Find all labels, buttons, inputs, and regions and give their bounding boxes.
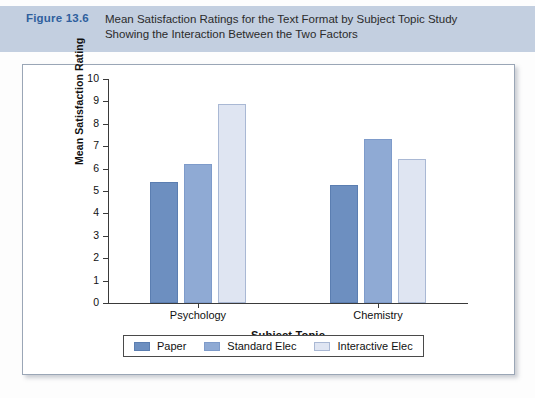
legend-item-standard-elec[interactable]: Standard Elec xyxy=(204,340,296,352)
bar-standard-elec-chemistry xyxy=(364,139,392,303)
legend-item-paper[interactable]: Paper xyxy=(134,340,186,352)
y-axis-tick-label: 9 xyxy=(93,94,99,106)
chart-legend: PaperStandard ElecInteractive Elec xyxy=(123,335,424,357)
y-axis-tick: 6 xyxy=(103,169,108,170)
bar-interactive-elec-psychology xyxy=(218,104,246,303)
legend-label: Standard Elec xyxy=(227,340,296,352)
x-axis-tick xyxy=(198,303,199,308)
y-axis-line xyxy=(108,79,109,303)
bar-paper-chemistry xyxy=(330,185,358,303)
y-axis-tick: 9 xyxy=(103,101,108,102)
x-axis-group-label: Chemistry xyxy=(318,309,438,321)
y-axis-tick: 0 xyxy=(103,303,108,304)
y-axis-tick: 4 xyxy=(103,213,108,214)
y-axis-tick: 8 xyxy=(103,124,108,125)
legend-label: Paper xyxy=(157,340,186,352)
y-axis-tick-label: 0 xyxy=(93,296,99,308)
y-axis-tick: 5 xyxy=(103,191,108,192)
plot-axes: 012345678910 PsychologyChemistry Subject… xyxy=(108,79,468,303)
x-axis-line xyxy=(108,303,468,304)
legend-swatch-icon xyxy=(204,342,220,351)
bar-standard-elec-psychology xyxy=(184,164,212,303)
bar-interactive-elec-chemistry xyxy=(398,159,426,303)
chart-panel: Mean Satisfaction Rating 012345678910 Ps… xyxy=(22,64,515,375)
y-axis-tick-label: 5 xyxy=(93,184,99,196)
bar-paper-psychology xyxy=(150,182,178,303)
y-axis-tick-label: 7 xyxy=(93,139,99,151)
y-axis-tick-label: 10 xyxy=(87,72,99,84)
y-axis-tick-label: 8 xyxy=(93,117,99,129)
y-axis-tick: 3 xyxy=(103,236,108,237)
y-axis-tick-label: 1 xyxy=(93,274,99,286)
y-axis-tick-label: 6 xyxy=(93,162,99,174)
y-axis-tick: 2 xyxy=(103,258,108,259)
x-axis-group-label: Psychology xyxy=(138,309,258,321)
plot-wrapper: Mean Satisfaction Rating 012345678910 Ps… xyxy=(23,65,514,374)
y-axis-tick: 1 xyxy=(103,281,108,282)
legend-item-interactive-elec[interactable]: Interactive Elec xyxy=(314,340,412,352)
y-axis-tick: 7 xyxy=(103,146,108,147)
caption-line-1: Mean Satisfaction Ratings for the Text F… xyxy=(105,12,457,27)
y-axis-tick: 10 xyxy=(103,79,108,80)
figure-number-label: Figure 13.6 xyxy=(26,12,89,24)
y-axis-tick-label: 4 xyxy=(93,206,99,218)
legend-swatch-icon xyxy=(314,342,330,351)
figure-caption-text: Mean Satisfaction Ratings for the Text F… xyxy=(105,12,457,42)
y-axis-tick-label: 3 xyxy=(93,229,99,241)
y-axis-title: Mean Satisfaction Rating xyxy=(73,149,85,165)
y-axis-tick-label: 2 xyxy=(93,251,99,263)
x-axis-tick xyxy=(378,303,379,308)
legend-swatch-icon xyxy=(134,342,150,351)
caption-line-2: Showing the Interaction Between the Two … xyxy=(105,27,457,42)
legend-label: Interactive Elec xyxy=(337,340,412,352)
